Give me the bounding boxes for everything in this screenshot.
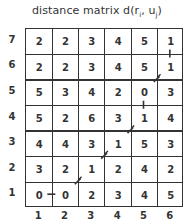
matrix-cell: 6	[79, 106, 105, 132]
matrix-cell: 2	[105, 157, 131, 183]
matrix-cell: 4	[105, 55, 131, 81]
matrix-cell: 4	[52, 131, 78, 157]
matrix-cell: 5	[26, 80, 52, 106]
matrix-cell: 4	[131, 157, 157, 183]
matrix-cell: 2	[52, 157, 78, 183]
matrix-cell: 2	[79, 182, 105, 208]
matrix-cell: 3	[79, 131, 105, 157]
matrix-cell: 4	[158, 106, 184, 132]
matrix-cell: 3	[158, 80, 184, 106]
matrix-cell: 3	[105, 106, 131, 132]
matrix-cell: 4	[26, 131, 52, 157]
column-label: 2	[52, 210, 78, 221]
matrix-cell: 1	[158, 29, 184, 55]
matrix-cell: 2	[26, 29, 52, 55]
column-label: 1	[25, 210, 51, 221]
matrix-cell: 2	[105, 80, 131, 106]
matrix-cell: 4	[79, 80, 105, 106]
row-label: 4	[5, 111, 19, 122]
row-label: 2	[5, 162, 19, 173]
distance-matrix-grid: 2234512234515342035263144431533212420023…	[25, 28, 183, 207]
matrix-cell: 1	[79, 157, 105, 183]
matrix-cell: 2	[26, 55, 52, 81]
chart-title: distance matrix d(ri, uj)	[0, 4, 194, 19]
matrix-cell: 3	[52, 80, 78, 106]
matrix-cell: 3	[79, 29, 105, 55]
matrix-cell: 1	[105, 131, 131, 157]
matrix-cell: 3	[158, 131, 184, 157]
matrix-cell: 0	[26, 182, 52, 208]
matrix-cell: 5	[131, 55, 157, 81]
row-label: 7	[5, 34, 19, 45]
row-label: 1	[5, 187, 19, 198]
row-label: 3	[5, 136, 19, 147]
matrix-cell: 1	[158, 55, 184, 81]
matrix-cell: 2	[158, 157, 184, 183]
row-label: 6	[5, 59, 19, 70]
matrix-cell: 2	[52, 29, 78, 55]
column-label: 4	[104, 210, 130, 221]
row-label: 5	[5, 85, 19, 96]
matrix-cell: 2	[52, 55, 78, 81]
matrix-cell: 0	[131, 80, 157, 106]
matrix-cell: 1	[131, 106, 157, 132]
column-label: 3	[78, 210, 104, 221]
column-label: 6	[157, 210, 183, 221]
matrix-cell: 3	[26, 157, 52, 183]
matrix-cell: 5	[26, 106, 52, 132]
column-label: 5	[131, 210, 157, 221]
matrix-cell: 4	[131, 182, 157, 208]
matrix-cell: 3	[79, 55, 105, 81]
matrix-cell: 0	[52, 182, 78, 208]
matrix-cell: 5	[131, 29, 157, 55]
matrix-cell: 2	[52, 106, 78, 132]
matrix-cell: 5	[131, 131, 157, 157]
matrix-cell: 3	[105, 182, 131, 208]
matrix-cell: 5	[158, 182, 184, 208]
matrix-cell: 4	[105, 29, 131, 55]
